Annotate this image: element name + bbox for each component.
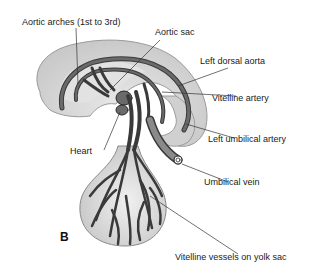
- panel-label: B: [60, 230, 69, 244]
- label-aortic-sac: Aortic sac: [155, 28, 195, 37]
- label-umbilical-vein: Umbilical vein: [204, 178, 260, 187]
- label-left-dorsal-aorta: Left dorsal aorta: [200, 57, 265, 66]
- label-vitelline-vessels: Vitelline vessels on yolk sac: [175, 253, 286, 262]
- label-vitelline-artery: Vitelline artery: [212, 94, 269, 103]
- label-aortic-arches: Aortic arches (1st to 3rd): [22, 18, 121, 27]
- embryo-circulation-diagram: Aortic arches (1st to 3rd) Aortic sac Le…: [0, 0, 312, 276]
- label-heart: Heart: [70, 147, 92, 156]
- label-left-umbilical-artery: Left umbilical artery: [208, 135, 286, 144]
